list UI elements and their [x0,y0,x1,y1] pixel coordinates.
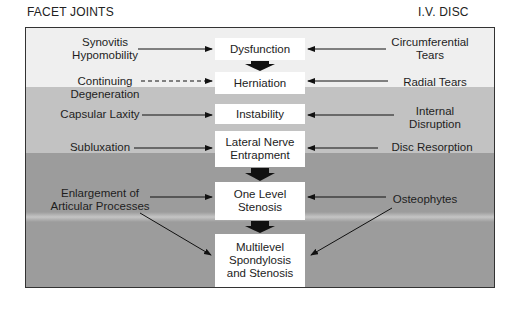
box-one-level-stenosis: One Level Stenosis [215,182,305,220]
label-subluxation: Subluxation [55,141,145,154]
iv-disc-header: I.V. DISC [418,5,469,19]
label-synovitis-hypomobility: Synovitis Hypomobility [60,36,150,62]
label-osteophytes: Osteophytes [380,193,470,206]
label-radial-tears: Radial Tears [390,76,480,89]
label-disc-resorption: Disc Resorption [382,141,482,154]
label-capsular-laxity: Capsular Laxity [50,108,150,121]
box-lateral-nerve-entrapment: Lateral Nerve Entrapment [215,131,305,167]
facet-joints-header: FACET JOINTS [27,5,114,19]
box-multilevel-spondylosis: Multilevel Spondylosis and Stenosis [215,234,305,287]
box-instability: Instability [215,104,305,124]
box-herniation: Herniation [215,72,305,94]
label-continuing-degeneration: Continuing Degeneration [55,75,155,101]
label-enlargement-articular: Enlargement of Articular Processes [40,187,160,213]
box-dysfunction: Dysfunction [215,38,305,60]
label-internal-disruption: Internal Disruption [390,105,480,131]
label-circumferential-tears: Circumferential Tears [380,36,480,62]
